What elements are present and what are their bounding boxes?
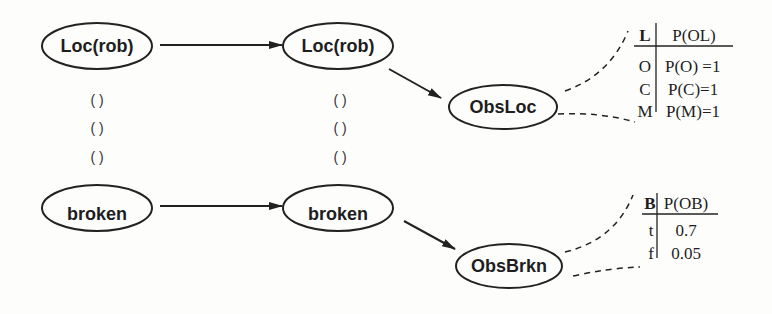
node-label: ObsBrkn	[471, 256, 547, 276]
ellipsis-glyph: ( )	[333, 149, 346, 165]
ellipsis-glyph: ( )	[90, 120, 103, 136]
node-loc-rob-t0: Loc(rob)	[42, 23, 152, 69]
node-label: ObsLoc	[469, 97, 536, 117]
cpt-header-var: L	[639, 26, 650, 45]
cpt-row-var: M	[637, 102, 652, 121]
node-broken-t0: broken	[42, 185, 152, 231]
cpt-table-obsbrkn: B P(OB) t 0.7 f 0.05	[642, 193, 718, 263]
node-loc-rob-t1: Loc(rob)	[283, 23, 393, 69]
cpt-table-obsloc: L P(OL) O P(O) =1 C P(C)=1 M P(M)=1	[634, 23, 733, 121]
cpt-row-var: C	[639, 80, 650, 99]
cpt-row-var: t	[649, 221, 654, 240]
node-broken-t1: broken	[283, 185, 393, 231]
node-obsloc: ObsLoc	[449, 85, 557, 129]
cpt-header-prob: P(OB)	[664, 194, 708, 213]
cpt-row-prob: 0.7	[675, 221, 697, 240]
cpt-header-var: B	[644, 194, 655, 213]
ellipsis-glyph: ( )	[333, 120, 346, 136]
node-label: broken	[67, 204, 127, 224]
bayes-net-diagram: Loc(rob) Loc(rob) ( ) ( ) ( ) ( ) ( ) ( …	[0, 0, 772, 314]
edge-broken-t1-obsbrkn	[404, 221, 455, 249]
cpt-header-prob: P(OL)	[672, 26, 715, 45]
ellipsis-column-left: ( ) ( ) ( )	[90, 92, 103, 165]
ellipsis-glyph: ( )	[333, 92, 346, 108]
node-label: Loc(rob)	[302, 36, 375, 56]
cpt-row-var: O	[639, 57, 651, 76]
node-label: broken	[308, 204, 368, 224]
cpt-row-prob: P(M)=1	[666, 102, 720, 121]
node-label: Loc(rob)	[61, 36, 134, 56]
callout-obsloc-top	[565, 31, 628, 91]
cpt-row-var: f	[648, 244, 654, 263]
ellipsis-glyph: ( )	[90, 92, 103, 108]
callout-obsbrkn-bottom	[573, 267, 640, 276]
cpt-row-prob: 0.05	[671, 244, 701, 263]
cpt-row-prob: P(C)=1	[668, 80, 718, 99]
ellipsis-glyph: ( )	[90, 149, 103, 165]
cpt-row-prob: P(O) =1	[665, 57, 720, 76]
ellipsis-column-right: ( ) ( ) ( )	[333, 92, 346, 165]
callout-obsbrkn-top	[565, 195, 633, 252]
edge-loc-t1-obsloc	[389, 69, 441, 98]
node-obsbrkn: ObsBrkn	[456, 244, 562, 288]
callout-obsloc-bottom	[558, 114, 635, 122]
